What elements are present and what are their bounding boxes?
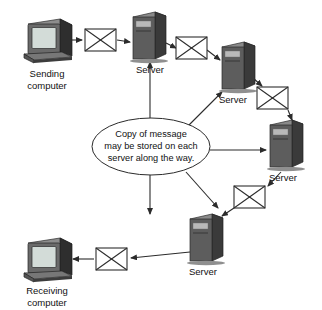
edge-bubble-to-server4 — [186, 172, 218, 208]
envelope-icon — [176, 37, 207, 59]
envelope-icon — [257, 87, 288, 109]
server-icon — [130, 12, 168, 63]
envelope-icon — [85, 29, 116, 51]
bubble-text-line3: server along the way. — [108, 153, 195, 163]
computer-icon — [24, 238, 72, 282]
server-1-label: Server — [136, 64, 164, 75]
edge-server1-to-envelope2 — [166, 43, 176, 48]
edge-envelope4-to-server4 — [222, 208, 234, 216]
server-icon — [187, 214, 225, 265]
server-4: Server — [187, 214, 225, 277]
server-2: Server — [219, 42, 257, 105]
receiving-computer-label-line2: computer — [27, 297, 67, 308]
server-4-label: Server — [189, 266, 217, 277]
email-routing-diagram: Sending computer Server — [0, 0, 322, 310]
server-2-label: Server — [219, 94, 247, 105]
envelope-1 — [85, 29, 116, 51]
server-1: Server — [130, 12, 168, 75]
server-icon — [267, 120, 305, 171]
edge-bubble-to-server2 — [186, 92, 222, 128]
envelope-3 — [257, 87, 288, 109]
envelope-5 — [96, 248, 127, 270]
receiving-computer-label-line1: Receiving — [26, 285, 68, 296]
server-3-label: Server — [269, 172, 297, 183]
receiving-computer: Receiving computer — [24, 238, 72, 308]
edge-envelope1-to-server1 — [117, 40, 130, 42]
callout-bubble: Copy of message may be stored on each se… — [92, 118, 210, 175]
computer-icon — [24, 19, 72, 63]
diagram-canvas: Sending computer Server — [0, 0, 322, 310]
bubble-text-line1: Copy of message — [115, 129, 187, 139]
envelope-4 — [234, 186, 265, 208]
server-3: Server — [267, 120, 305, 183]
envelope-2 — [176, 37, 207, 59]
edge-envelope2-to-server2 — [207, 50, 220, 60]
bubble-text-line2: may be stored on each — [104, 141, 197, 151]
edge-server4-to-envelope5 — [131, 252, 190, 258]
server-icon — [219, 42, 257, 93]
envelope-icon — [234, 186, 265, 208]
envelope-icon — [96, 248, 127, 270]
sending-computer: Sending computer — [24, 19, 72, 91]
sending-computer-label-line2: computer — [27, 80, 67, 91]
sending-computer-label-line1: Sending — [30, 68, 65, 79]
edge-envelope3-to-server3 — [288, 110, 292, 120]
